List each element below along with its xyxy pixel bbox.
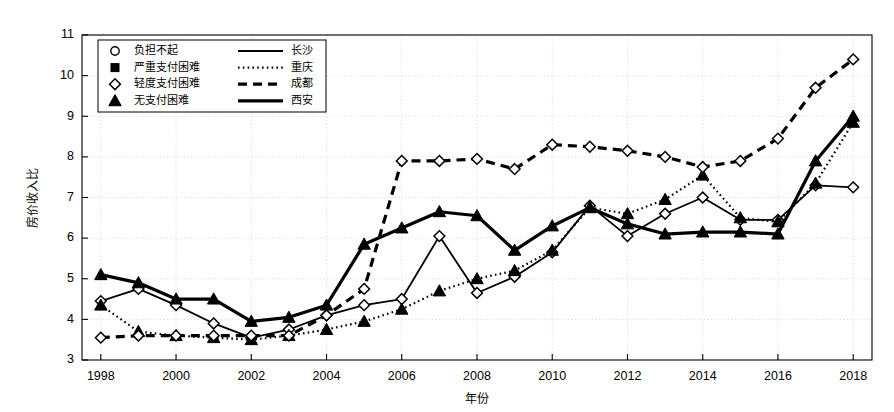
legend-series-label: 成都: [291, 77, 313, 89]
y-tick-label: 5: [67, 271, 74, 285]
y-axis-title: 房价收入比: [25, 168, 40, 228]
legend-category-label: 无支付困难: [134, 94, 189, 106]
legend: 负担不起长沙严重支付困难重庆轻度支付困难成都无支付困难西安: [98, 40, 326, 112]
house-price-income-ratio-chart: 3456789101119982000200220042006200820102…: [0, 0, 894, 412]
y-tick-label: 11: [61, 27, 74, 41]
legend-category-label: 严重支付困难: [134, 60, 200, 73]
x-axis-title: 年份: [465, 392, 489, 406]
legend-series-label: 长沙: [291, 44, 313, 56]
y-tick-label: 10: [60, 68, 74, 82]
y-tick-label: 8: [67, 149, 74, 163]
x-tick-label: 2002: [237, 369, 265, 383]
y-tick-label: 4: [67, 312, 74, 326]
y-tick-label: 3: [67, 352, 74, 366]
x-tick-label: 2008: [463, 369, 491, 383]
x-tick-label: 2006: [388, 369, 416, 383]
x-tick-label: 2010: [538, 369, 566, 383]
x-tick-label: 2004: [313, 369, 341, 383]
x-tick-label: 2016: [764, 369, 792, 383]
x-tick-label: 2000: [162, 369, 190, 383]
legend-series-label: 西安: [291, 93, 313, 106]
legend-series-label: 重庆: [291, 60, 313, 73]
y-tick-label: 6: [67, 230, 74, 244]
chart-canvas: 3456789101119982000200220042006200820102…: [0, 0, 894, 412]
legend-category-label: 负担不起: [134, 43, 178, 56]
x-tick-label: 2014: [689, 369, 717, 383]
x-tick-label: 2012: [614, 369, 642, 383]
legend-category-label: 轻度支付困难: [134, 76, 200, 89]
x-tick-label: 1998: [87, 369, 115, 383]
x-tick-label: 2018: [839, 369, 867, 383]
legend-marker-square-filled: [111, 64, 119, 72]
y-tick-label: 9: [67, 109, 74, 123]
legend-marker-circle-open: [111, 47, 119, 55]
y-tick-label: 7: [67, 190, 74, 204]
